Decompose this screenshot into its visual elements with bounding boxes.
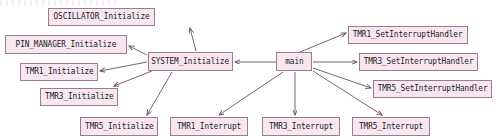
node-label: TMR3_Interrupt (269, 123, 333, 131)
node-label: TMR5_SetInterruptHandler (378, 85, 488, 93)
node-tmr5_initialize[interactable]: TMR5_Initialize (80, 117, 158, 136)
node-label: TMR5_Interrupt (359, 123, 423, 131)
node-label: TMR1_SetInterruptHandler (353, 31, 463, 39)
call-graph-diagram: OSCILLATOR_InitializePIN_MANAGER_Initial… (0, 0, 503, 140)
edge-main-to-tmr1_interrupt (219, 72, 283, 115)
edges-group (100, 28, 382, 115)
node-label: TMR5_Initialize (85, 123, 154, 131)
edge-system_initialize-to-oscillator_initialize (190, 28, 196, 51)
node-label: OSCILLATOR_Initialize (53, 13, 149, 21)
edge-system_initialize-to-tmr1_initialize (100, 62, 147, 71)
edge-system_initialize-to-tmr5_initialize (147, 72, 172, 115)
edge-main-to-tmr5_interrupt (313, 71, 382, 115)
node-label: SYSTEM_Initialize (152, 58, 230, 66)
node-label: TMR3_Initialize (45, 93, 114, 101)
node-label: TMR1_Initialize (25, 68, 94, 76)
node-main[interactable]: main (276, 52, 312, 71)
node-label: TMR1_Interrupt (177, 123, 241, 131)
edge-system_initialize-to-pin_manager_initialize (129, 46, 147, 55)
node-label: TMR3_SetInterruptHandler (364, 58, 474, 66)
node-label: main (285, 58, 303, 66)
node-label: PIN_MANAGER_Initialize (16, 41, 117, 49)
node-tmr5_setinterrupthandler[interactable]: TMR5_SetInterruptHandler (373, 80, 492, 98)
node-tmr1_setinterrupthandler[interactable]: TMR1_SetInterruptHandler (348, 26, 468, 44)
node-tmr1_initialize[interactable]: TMR1_Initialize (20, 63, 98, 81)
node-system_initialize[interactable]: SYSTEM_Initialize (148, 52, 233, 71)
node-oscillator_initialize[interactable]: OSCILLATOR_Initialize (48, 8, 155, 26)
node-tmr3_initialize[interactable]: TMR3_Initialize (40, 88, 118, 106)
edge-main-to-tmr1_setinterrupthandler (300, 33, 346, 52)
node-tmr3_interrupt[interactable]: TMR3_Interrupt (262, 117, 340, 136)
node-tmr3_setinterrupthandler[interactable]: TMR3_SetInterruptHandler (359, 53, 478, 71)
node-pin_manager_initialize[interactable]: PIN_MANAGER_Initialize (5, 35, 127, 54)
edge-main-to-tmr5_setinterrupthandler (313, 68, 371, 88)
node-tmr5_interrupt[interactable]: TMR5_Interrupt (352, 117, 430, 136)
top-clipped-artifact (0, 0, 120, 6)
edge-system_initialize-to-tmr3_initialize (114, 71, 152, 86)
node-tmr1_interrupt[interactable]: TMR1_Interrupt (170, 117, 248, 136)
